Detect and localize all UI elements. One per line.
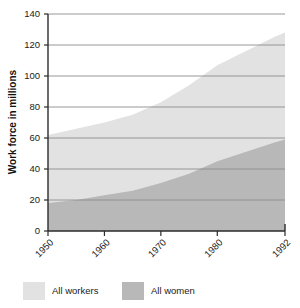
y-tick-label: 80: [29, 101, 40, 112]
area-chart: 020406080100120140 19501960197019801992 …: [0, 0, 300, 308]
y-axis-title: Work force in millions: [7, 69, 18, 174]
x-tick-label: 1992: [270, 237, 293, 260]
legend-swatch: [122, 282, 144, 300]
x-tick-label: 1950: [33, 237, 56, 260]
y-tick-label: 120: [24, 39, 40, 50]
legend-label: All women: [151, 285, 195, 296]
x-axis-ticks: 19501960197019801992: [33, 231, 293, 259]
y-tick-label: 20: [29, 194, 40, 205]
y-tick-label: 0: [35, 225, 40, 236]
chart-legend: All workersAll women: [23, 282, 195, 300]
legend-label: All workers: [52, 285, 99, 296]
x-tick-label: 1970: [146, 237, 169, 260]
x-tick-label: 1960: [89, 237, 112, 260]
y-tick-label: 40: [29, 163, 40, 174]
legend-swatch: [23, 282, 45, 300]
y-tick-label: 60: [29, 132, 40, 143]
x-tick-label: 1980: [202, 237, 225, 260]
y-tick-label: 100: [24, 70, 40, 81]
y-axis-ticks: 020406080100120140: [24, 8, 48, 236]
y-tick-label: 140: [24, 8, 40, 19]
chart-container: 020406080100120140 19501960197019801992 …: [0, 0, 300, 308]
